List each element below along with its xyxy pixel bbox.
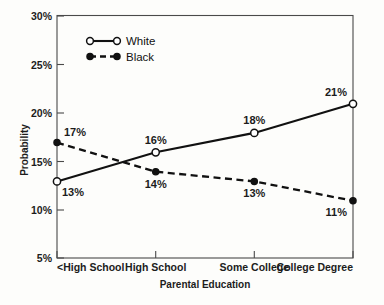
point-label: 13% xyxy=(62,186,84,198)
data-point xyxy=(152,149,159,156)
point-label: 14% xyxy=(145,178,167,190)
y-axis-ticks xyxy=(57,16,64,258)
chart-legend: White Black xyxy=(87,35,156,63)
legend-item-black[interactable]: Black xyxy=(87,51,154,63)
legend-marker-filled-circle xyxy=(114,53,120,59)
data-point xyxy=(53,178,60,185)
legend-label-white: White xyxy=(126,35,155,47)
point-label: 13% xyxy=(243,187,265,199)
x-axis-tick-labels: <High School High School Some College Co… xyxy=(57,261,353,273)
series-line-white xyxy=(57,104,353,182)
y-tick-label: 20% xyxy=(31,107,53,119)
data-point xyxy=(54,140,60,146)
y-tick-label: 30% xyxy=(31,10,53,22)
point-labels-black: 17% 14% 13% 11% xyxy=(64,126,347,218)
legend-item-white[interactable]: White xyxy=(87,35,156,47)
legend-marker-filled-circle xyxy=(87,53,93,59)
y-tick-label: 5% xyxy=(37,252,53,264)
x-tick-label: High School xyxy=(125,261,186,273)
x-tick-label: <High School xyxy=(57,261,124,273)
data-point xyxy=(153,169,159,175)
data-point xyxy=(251,129,258,136)
point-label: 18% xyxy=(243,114,265,126)
data-point xyxy=(349,100,356,107)
data-point xyxy=(350,198,356,204)
line-chart: 30% 25% 20% 15% 10% 5% <High School High… xyxy=(0,0,384,305)
y-axis-title: Probability xyxy=(19,124,30,176)
plot-frame xyxy=(57,16,353,259)
point-label: 17% xyxy=(64,126,86,138)
y-axis-tick-labels: 30% 25% 20% 15% 10% 5% xyxy=(31,10,53,264)
series-markers-black xyxy=(54,140,356,204)
y-tick-label: 15% xyxy=(31,156,53,168)
chart-container: 30% 25% 20% 15% 10% 5% <High School High… xyxy=(0,0,384,305)
x-axis-title: Parental Education xyxy=(160,279,251,290)
x-tick-label: College Degree xyxy=(277,261,354,273)
data-point xyxy=(251,178,257,184)
legend-marker-open-circle xyxy=(114,38,121,45)
legend-marker-open-circle xyxy=(87,38,94,45)
x-axis-ticks xyxy=(57,251,353,258)
y-tick-label: 10% xyxy=(31,204,53,216)
point-label: 11% xyxy=(326,206,348,218)
series-line-black xyxy=(57,143,353,201)
point-label: 21% xyxy=(325,86,347,98)
legend-label-black: Black xyxy=(126,51,154,63)
point-label: 16% xyxy=(145,134,167,146)
y-tick-label: 25% xyxy=(31,59,53,71)
